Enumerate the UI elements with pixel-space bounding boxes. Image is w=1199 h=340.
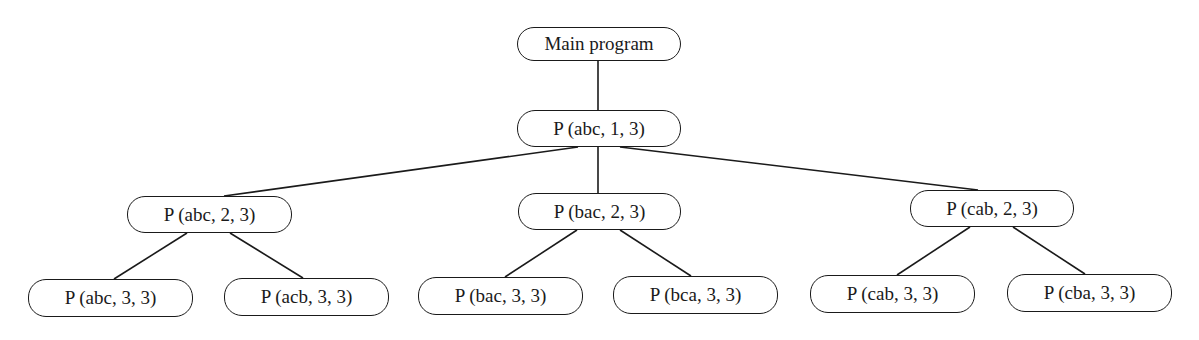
tree-edge bbox=[620, 147, 978, 190]
tree-edge bbox=[897, 227, 970, 275]
tree-node-p-bca-3-3: P (bca, 3, 3) bbox=[613, 276, 778, 314]
tree-node-p-acb-3-3: P (acb, 3, 3) bbox=[224, 278, 389, 316]
tree-edge bbox=[505, 230, 577, 277]
tree-node-p-abc-2-3: P (abc, 2, 3) bbox=[127, 196, 292, 233]
tree-node-main: Main program bbox=[517, 27, 681, 61]
tree-node-p-abc-3-3: P (abc, 3, 3) bbox=[28, 279, 193, 317]
tree-node-p-cab-2-3: P (cab, 2, 3) bbox=[910, 190, 1074, 227]
tree-node-p-bac-3-3: P (bac, 3, 3) bbox=[418, 277, 583, 315]
tree-node-p-cab-3-3: P (cab, 3, 3) bbox=[810, 275, 975, 313]
tree-edge bbox=[1013, 227, 1085, 274]
tree-edge bbox=[230, 233, 303, 278]
tree-edge bbox=[114, 233, 187, 279]
tree-edge bbox=[224, 147, 578, 196]
tree-edge bbox=[620, 230, 691, 276]
tree-node-p-cba-3-3: P (cba, 3, 3) bbox=[1007, 274, 1172, 312]
tree-node-p-abc-1-3: P (abc, 1, 3) bbox=[517, 110, 681, 147]
recursion-tree-diagram: Main programP (abc, 1, 3)P (abc, 2, 3)P … bbox=[0, 0, 1199, 340]
tree-node-p-bac-2-3: P (bac, 2, 3) bbox=[518, 193, 681, 230]
